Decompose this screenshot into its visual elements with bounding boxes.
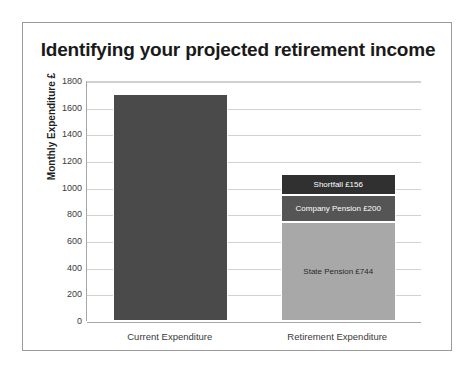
gridline — [87, 82, 421, 83]
x-tick-label: Current Expenditure — [127, 331, 212, 342]
y-tick-label: 1400 — [48, 129, 82, 139]
y-tick-label: 400 — [48, 263, 82, 273]
y-tick-label: 1000 — [48, 183, 82, 193]
bar-1[interactable] — [113, 94, 228, 321]
y-tick-label: 0 — [48, 316, 82, 326]
bar-2[interactable]: State Pension £744Company Pension £200Sh… — [281, 174, 396, 321]
y-axis-tick-labels: 180016001400120010008006004002000 — [44, 81, 82, 321]
chart-figure: Identifying your projected retirement in… — [22, 22, 452, 351]
y-tick-label: 200 — [48, 289, 82, 299]
chart-title: Identifying your projected retirement in… — [23, 39, 453, 61]
y-tick-label: 1200 — [48, 156, 82, 166]
bar-segment[interactable]: State Pension £744 — [281, 222, 396, 321]
x-axis-tick-labels: Current ExpenditureRetirement Expenditur… — [86, 325, 421, 351]
bar-segment[interactable] — [113, 94, 228, 321]
bar-segment[interactable]: Shortfall £156 — [281, 174, 396, 195]
gridline — [87, 322, 421, 323]
x-tick-label: Retirement Expenditure — [287, 331, 387, 342]
bar-segment[interactable]: Company Pension £200 — [281, 195, 396, 222]
y-tick-label: 600 — [48, 236, 82, 246]
y-tick-label: 1600 — [48, 103, 82, 113]
y-tick-label: 800 — [48, 209, 82, 219]
plot-area: State Pension £744Company Pension £200Sh… — [86, 81, 421, 321]
y-tick-label: 1800 — [48, 76, 82, 86]
